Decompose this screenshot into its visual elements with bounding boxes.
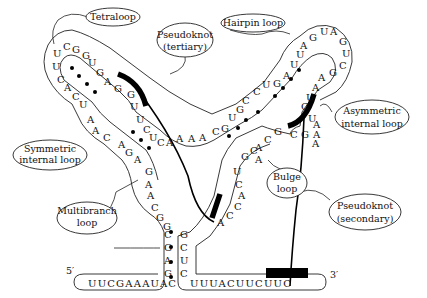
svg-text:U: U <box>233 166 241 177</box>
svg-text:A: A <box>63 82 72 93</box>
label-multibranch-loop: Multibranch loop <box>57 202 117 234</box>
svg-text:internal loop: internal loop <box>341 118 403 129</box>
svg-text:Pseudoknot: Pseudoknot <box>157 29 213 40</box>
label-symmetric-internal-loop: Symmetric internal loop <box>13 140 87 170</box>
label-bulge-loop: Bulge loop <box>267 168 307 198</box>
svg-text:A: A <box>187 133 196 144</box>
svg-text:G: G <box>72 44 80 55</box>
svg-text:U: U <box>342 48 350 59</box>
svg-text:G: G <box>96 67 104 78</box>
svg-text:A: A <box>86 114 95 125</box>
svg-text:C: C <box>242 95 250 106</box>
nucleotides: U U C A C U A A C A G A C G G U G A G G … <box>52 26 350 289</box>
svg-text:A: A <box>198 132 207 143</box>
svg-text:G: G <box>164 242 172 253</box>
svg-text:(secondary): (secondary) <box>337 213 394 224</box>
svg-text:C: C <box>253 86 261 97</box>
five-prime-tail: UUCGAAAUAC <box>88 278 177 289</box>
svg-text:C: C <box>234 201 242 212</box>
svg-text:C: C <box>180 268 188 279</box>
svg-text:C: C <box>180 242 188 253</box>
svg-text:Asymmetric: Asymmetric <box>342 105 400 116</box>
svg-text:U: U <box>130 101 138 112</box>
label-hairpin-loop: Hairpin loop <box>221 14 285 32</box>
svg-text:internal loop: internal loop <box>19 154 81 165</box>
svg-text:U: U <box>52 61 60 72</box>
label-asymmetric-internal-loop: Asymmetric internal loop <box>335 100 409 134</box>
svg-text:(tertiary): (tertiary) <box>163 41 207 52</box>
svg-text:A: A <box>237 190 246 201</box>
svg-text:C: C <box>235 179 243 190</box>
svg-text:C: C <box>103 132 111 143</box>
svg-text:G: G <box>221 123 229 134</box>
svg-text:G: G <box>339 36 347 47</box>
svg-text:Pseudoknot: Pseudoknot <box>337 200 393 211</box>
svg-text:G: G <box>301 129 309 140</box>
svg-text:C: C <box>212 126 220 137</box>
svg-text:A: A <box>103 76 112 87</box>
svg-text:U: U <box>53 48 61 59</box>
svg-text:A: A <box>133 154 142 165</box>
svg-text:A: A <box>91 125 100 136</box>
svg-text:A: A <box>175 133 184 144</box>
svg-text:C: C <box>226 210 234 221</box>
svg-text:G: G <box>274 126 282 137</box>
svg-text:A: A <box>311 138 320 149</box>
svg-text:G: G <box>309 32 317 43</box>
svg-text:A: A <box>146 190 155 201</box>
three-prime-tail: UUUACUUCUUC <box>190 278 292 289</box>
svg-text:G: G <box>273 78 281 89</box>
svg-text:C: C <box>301 101 309 112</box>
svg-text:G: G <box>329 67 337 78</box>
svg-text:G: G <box>145 166 153 177</box>
svg-text:G: G <box>180 229 188 240</box>
svg-text:loop: loop <box>277 183 298 194</box>
svg-text:A: A <box>163 255 172 266</box>
three-prime-end: 3′ <box>330 269 338 280</box>
svg-text:C: C <box>264 134 272 145</box>
pseudoknot-anchor-block <box>266 268 308 278</box>
svg-text:G: G <box>241 151 249 162</box>
svg-text:C: C <box>339 60 347 71</box>
svg-text:A: A <box>144 179 153 190</box>
svg-text:A: A <box>165 137 174 148</box>
label-pseudoknot-secondary: Pseudoknot (secondary) <box>329 194 401 230</box>
svg-text:A: A <box>329 26 338 37</box>
svg-text:G: G <box>127 89 135 100</box>
svg-text:C: C <box>290 129 298 140</box>
svg-text:U: U <box>320 26 328 37</box>
svg-text:U: U <box>262 79 270 90</box>
svg-text:C: C <box>157 137 165 148</box>
svg-text:A: A <box>282 70 291 81</box>
svg-text:Bulge: Bulge <box>273 171 301 182</box>
svg-text:A: A <box>299 40 308 51</box>
svg-text:Hairpin loop: Hairpin loop <box>223 17 283 28</box>
svg-text:U: U <box>290 59 298 70</box>
svg-text:A: A <box>216 217 225 228</box>
svg-text:U: U <box>180 255 188 266</box>
svg-text:G: G <box>114 83 122 94</box>
svg-text:C: C <box>164 229 172 240</box>
label-pseudoknot-tertiary: Pseudoknot (tertiary) <box>157 23 213 57</box>
label-tetraloop: Tetraloop <box>86 8 140 26</box>
svg-text:Multibranch: Multibranch <box>57 205 117 216</box>
svg-text:Tetraloop: Tetraloop <box>90 11 136 22</box>
svg-text:loop: loop <box>77 217 98 228</box>
rna-structure-diagram: U U C A C U A A C A G A C G G U G A G G … <box>0 0 427 298</box>
five-prime-end: 5′ <box>66 265 74 276</box>
svg-text:U: U <box>79 99 87 110</box>
svg-text:G: G <box>125 147 133 158</box>
svg-text:Symmetric: Symmetric <box>24 143 76 154</box>
svg-text:A: A <box>254 154 263 165</box>
svg-text:C: C <box>63 41 71 52</box>
